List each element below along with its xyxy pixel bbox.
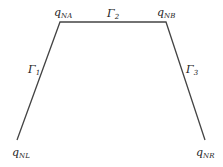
boundary-polyline	[0, 0, 223, 167]
edge-label-gamma-2: Γ2	[107, 8, 119, 21]
node-label-q-nr: qNR	[196, 147, 214, 160]
node-label-q-nl: qNL	[12, 147, 30, 160]
edge-label-gamma-1: Γ1	[28, 64, 40, 77]
node-label-q-na: qNA	[54, 7, 72, 20]
node-label-q-nb: qNB	[157, 7, 175, 20]
boundary-diagram: qNA qNB qNL qNR Γ1 Γ2 Γ3	[0, 0, 223, 167]
edge-label-gamma-3: Γ3	[186, 64, 198, 77]
